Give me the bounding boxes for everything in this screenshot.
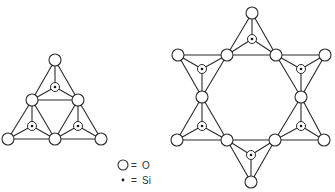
legend-label-silicon: Si <box>142 175 151 186</box>
o-o-edge <box>301 55 325 97</box>
legend-label-oxygen: O <box>142 160 150 171</box>
silicon-atom <box>198 122 207 131</box>
three-membered-ring <box>2 54 107 145</box>
silicon-dot-icon <box>300 68 303 71</box>
oxygen-atom-icon <box>171 134 183 146</box>
silicon-dot-icon <box>122 179 125 182</box>
oxygen-atom-icon <box>318 134 330 146</box>
silicon-atom <box>247 151 256 160</box>
silicon-atom <box>248 35 257 44</box>
oxygen-atom-icon <box>95 133 107 145</box>
legend-equals: = <box>131 175 137 186</box>
silicon-dot-icon <box>300 125 303 128</box>
legend-equals: = <box>131 160 137 171</box>
silicon-dot-icon <box>201 125 204 128</box>
silicon-dot-icon <box>251 38 254 41</box>
oxygen-atom-icon <box>319 49 331 61</box>
o-o-edge <box>178 55 202 97</box>
silicon-atom <box>28 122 37 131</box>
legend-item-silicon: = Si <box>122 175 151 186</box>
o-o-edge <box>78 100 101 139</box>
oxygen-atom-icon <box>196 91 208 103</box>
o-o-edge <box>32 100 55 139</box>
silicon-dot-icon <box>201 68 204 71</box>
silicon-dot-icon <box>31 125 34 128</box>
o-o-edge <box>252 13 276 55</box>
silicon-atom <box>51 83 60 92</box>
o-o-edge <box>227 140 251 182</box>
oxygen-atom-icon <box>270 49 282 61</box>
oxygen-atom-icon <box>49 54 61 66</box>
silicate-ring-diagram: = O = Si <box>0 0 335 192</box>
silicon-atom <box>74 122 83 131</box>
oxygen-atom-icon <box>221 134 233 146</box>
oxygen-atom-icon <box>26 94 38 106</box>
oxygen-atom-icon <box>245 176 257 188</box>
silicon-atom <box>297 65 306 74</box>
silicon-dot-icon <box>77 125 80 128</box>
o-o-edge <box>276 55 301 97</box>
silicon-atom <box>198 65 207 74</box>
o-o-edge <box>8 100 32 139</box>
legend-item-oxygen: = O <box>118 160 150 171</box>
silicon-dot-icon <box>250 154 253 157</box>
o-o-edge <box>251 140 275 182</box>
oxygen-atom-icon <box>2 133 14 145</box>
o-o-edge <box>202 55 227 97</box>
silicon-atom <box>297 122 306 131</box>
oxygen-atom-icon <box>295 91 307 103</box>
silicate-structures <box>2 7 331 188</box>
oxygen-atom-icon <box>172 49 184 61</box>
oxygen-atom-icon <box>72 94 84 106</box>
o-o-edge <box>227 13 252 55</box>
bonds <box>8 60 101 139</box>
oxygen-atom-icon <box>246 7 258 19</box>
o-o-edge <box>55 100 78 139</box>
silicon-dot-icon <box>54 86 57 89</box>
legend: = O = Si <box>118 160 151 186</box>
oxygen-atom-icon <box>49 133 61 145</box>
oxygen-atom-icon <box>269 134 281 146</box>
oxygen-atom-icon <box>221 49 233 61</box>
oxygen-symbol-icon <box>118 160 128 170</box>
six-membered-ring <box>171 7 331 188</box>
